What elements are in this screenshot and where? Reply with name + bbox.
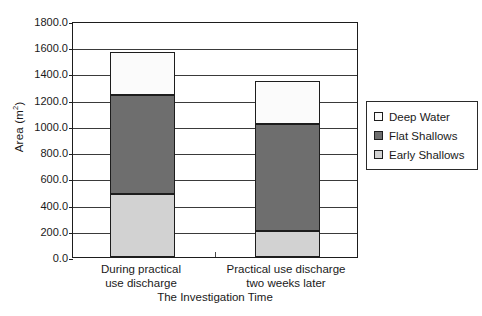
x-axis-category-label-line: During practical (66, 262, 216, 276)
x-axis-category-label: Practical use dischargetwo weeks later (211, 262, 361, 290)
legend: Deep WaterFlat ShallowsEarly Shallows (366, 101, 478, 170)
legend-swatch-icon (374, 131, 383, 140)
x-axis-category-label: During practicaluse discharge (66, 262, 216, 290)
bar-segment-deep-water (255, 81, 320, 124)
y-axis-tick-label: 200.0 (14, 227, 68, 237)
legend-item-flat-shallows[interactable]: Flat Shallows (374, 126, 473, 145)
stacked-bar-chart: Area (m2) 1800.01600.01400.01200.01000.0… (0, 0, 482, 316)
legend-label: Early Shallows (389, 149, 464, 161)
y-axis-tick-label: 600.0 (14, 174, 68, 184)
y-axis-tick (69, 154, 73, 155)
y-axis-tick (69, 49, 73, 50)
plot-area (72, 22, 358, 258)
bar-segment-flat-shallows (255, 124, 320, 232)
y-axis-tick-label: 1200.0 (14, 96, 68, 106)
y-axis-tick-label: 1000.0 (14, 122, 68, 132)
y-axis-tick (69, 259, 73, 260)
bar-segment-flat-shallows (110, 95, 175, 194)
bar-segment-early-shallows (255, 231, 320, 257)
legend-item-deep-water[interactable]: Deep Water (374, 107, 473, 126)
bar-segment-early-shallows (110, 194, 175, 257)
y-axis-tick-labels: 1800.01600.01400.01200.01000.0800.0600.0… (14, 22, 68, 258)
bar-segment-deep-water (110, 52, 175, 95)
y-axis-tick-label: 400.0 (14, 201, 68, 211)
y-axis-tick (69, 23, 73, 24)
x-axis-category-label-line: use discharge (66, 276, 216, 290)
x-axis-category-label-line: Practical use discharge (211, 262, 361, 276)
y-axis-tick-label: 1800.0 (14, 17, 68, 27)
y-axis-tick (69, 207, 73, 208)
legend-swatch-icon (374, 150, 383, 159)
x-axis-category-label-line: two weeks later (211, 276, 361, 290)
legend-label: Flat Shallows (389, 130, 457, 142)
y-axis-tick (69, 180, 73, 181)
y-axis-tick-label: 1600.0 (14, 43, 68, 53)
y-axis-tick-label: 0.0 (14, 253, 68, 263)
x-axis-title: The Investigation Time (72, 291, 358, 303)
legend-label: Deep Water (389, 111, 450, 123)
legend-swatch-icon (374, 112, 383, 121)
category-divider-tick (215, 252, 216, 257)
y-axis-tick (69, 233, 73, 234)
y-axis-tick (69, 75, 73, 76)
y-axis-tick-label: 800.0 (14, 148, 68, 158)
legend-item-early-shallows[interactable]: Early Shallows (374, 145, 473, 164)
y-axis-tick (69, 128, 73, 129)
gridline (73, 49, 357, 50)
y-axis-tick-label: 1400.0 (14, 69, 68, 79)
y-axis-tick (69, 102, 73, 103)
